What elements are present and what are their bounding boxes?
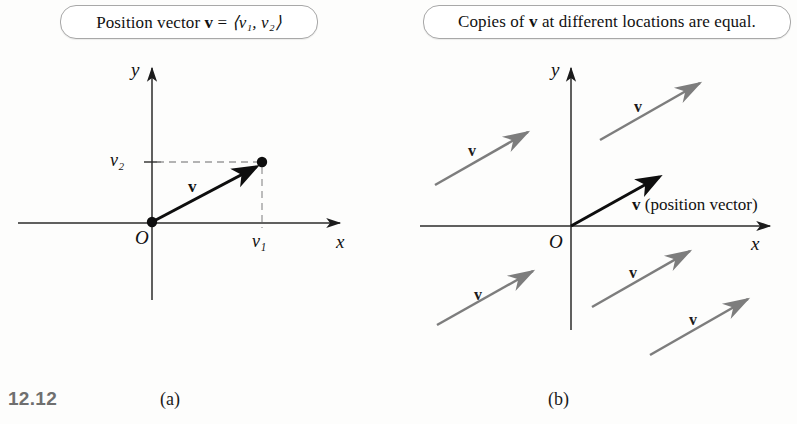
panel-letter-a: (a) — [160, 389, 180, 410]
panel-a-origin-label: O — [135, 228, 149, 247]
callout-a-prefix: Position vector — [96, 13, 204, 32]
callout-position-vector: Position vector v = ⟨v₁, v₂⟩ — [60, 5, 318, 39]
callout-a-equals: = — [213, 13, 231, 32]
copy-lower-right-label: v — [689, 312, 697, 328]
panel-letter-b: (b) — [548, 389, 569, 410]
panel-a-axes — [18, 68, 340, 300]
callout-b-suffix: at different locations are equal. — [538, 12, 756, 31]
panel-b-origin-label: O — [549, 232, 563, 251]
panel-a-vector-shaft — [152, 167, 256, 222]
copy-lower-mid-label: v — [629, 265, 637, 281]
copy-upper-left-label: v — [468, 143, 476, 159]
callout-b-text: Copies of v at different locations are e… — [458, 12, 756, 32]
copy-upper-right — [600, 83, 700, 140]
callout-equal-copies: Copies of v at different locations are e… — [423, 5, 791, 39]
copy-lower-right — [650, 299, 748, 355]
callout-a-components: ⟨v₁, v₂⟩ — [232, 13, 282, 32]
copy-lower-mid — [592, 251, 690, 307]
panel-b-vector-copies — [435, 83, 748, 355]
panel-a-origin-dot — [147, 217, 157, 227]
callout-b-prefix: Copies of — [458, 12, 529, 31]
copy-upper-left — [435, 132, 528, 185]
panel-b-position-vector-label: v (position vector) — [632, 196, 758, 213]
panel-a-x-axis-label: x — [336, 232, 344, 251]
panel-a-vector-label: v — [188, 178, 197, 195]
copy-lower-left — [437, 271, 533, 325]
panel-b-position-vector-symbol: v — [632, 195, 641, 214]
copy-lower-left-label: v — [474, 287, 482, 303]
panel-a-label-v1: v₁ — [252, 232, 266, 250]
figure-number: 12.12 — [8, 388, 57, 410]
callout-a-text: Position vector v = ⟨v₁, v₂⟩ — [96, 12, 282, 33]
callout-a-vector-symbol: v — [205, 13, 214, 32]
callout-b-vector-symbol: v — [529, 12, 538, 31]
panel-a-vector-v — [147, 157, 267, 227]
figure-12-12: Position vector v = ⟨v₁, v₂⟩ Copies of v… — [0, 0, 797, 424]
panel-b-x-axis-label: x — [751, 234, 759, 253]
panel-b-y-axis-label: y — [551, 60, 559, 79]
panel-a-label-v2: v₂ — [110, 151, 124, 169]
panel-a-guides — [157, 162, 262, 228]
panel-b-position-vector-annotation: (position vector) — [645, 195, 758, 214]
panel-a-y-axis-label: y — [131, 60, 139, 79]
panel-a-terminal-dot — [257, 157, 267, 167]
copy-upper-right-label: v — [634, 99, 642, 115]
